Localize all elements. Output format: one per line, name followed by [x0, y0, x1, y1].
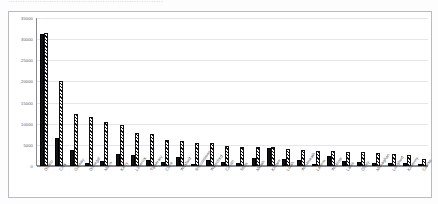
x-label-slot: Kerry: [116, 168, 124, 198]
x-label-slot: Longford: [388, 168, 396, 198]
bar-group: [161, 18, 169, 166]
y-tick-label: 10000: [21, 121, 33, 126]
bar-group: [176, 18, 184, 166]
bar-group: [236, 18, 244, 166]
bar-group: [70, 18, 78, 166]
cut-off-document-text: ........................................…: [0, 0, 438, 10]
cut-off-text: ........................................…: [8, 0, 163, 4]
bar-series-2: [74, 114, 78, 166]
x-label-slot: Kildare: [267, 168, 275, 198]
bar-group: [327, 18, 335, 166]
y-tick-label: 25000: [21, 58, 33, 63]
bar-series-2: [89, 117, 93, 166]
x-label-slot: Cork: [55, 168, 63, 198]
x-label-slot: Laois: [342, 168, 350, 198]
bar-group: [206, 18, 214, 166]
x-label-slot: Mayo: [100, 168, 108, 198]
x-label-slot: Meath: [252, 168, 260, 198]
bar-group: [191, 18, 199, 166]
bar-group: [116, 18, 124, 166]
bar-series-2: [44, 33, 48, 166]
x-label-slot: Leitrim: [312, 168, 320, 198]
x-label-slot: Wexford: [176, 168, 184, 198]
bar-series-2: [104, 122, 108, 166]
bar-group: [372, 18, 380, 166]
x-label-slot: Westmeath: [297, 168, 305, 198]
y-tick-label: 15000: [21, 100, 33, 105]
x-label-slot: Offaly: [357, 168, 365, 198]
x-label-slot: Limerick: [131, 168, 139, 198]
x-label-slot: Donegal: [85, 168, 93, 198]
y-tick-label: 5000: [23, 142, 33, 147]
chart-frame: 35000300002500020000150001000050000 Dubl…: [8, 11, 432, 198]
y-tick-label: 30000: [21, 37, 33, 42]
y-tick-label: 20000: [21, 79, 33, 84]
y-axis-labels: 35000300002500020000150001000050000: [9, 18, 35, 166]
figure-page: ........................................…: [0, 0, 438, 204]
bar-group: [146, 18, 154, 166]
bar-group: [85, 18, 93, 166]
bar-groups: [37, 18, 428, 166]
x-label-slot: Wicklow: [327, 168, 335, 198]
bar-group: [418, 18, 426, 166]
bar-group: [342, 18, 350, 166]
x-label-slot: Clare: [161, 168, 169, 198]
bar-group: [131, 18, 139, 166]
bar-group: [55, 18, 63, 166]
x-label-slot: Roscommon: [191, 168, 199, 198]
x-label-slot: Louth: [282, 168, 290, 198]
x-label-slot: Tipperary: [146, 168, 154, 198]
x-label-slot: Monaghan: [372, 168, 380, 198]
x-axis-labels: DublinCorkGalwayDonegalMayoKerryLimerick…: [37, 168, 428, 198]
x-label-slot: Cavan: [221, 168, 229, 198]
x-label-slot: Galway: [70, 168, 78, 198]
bar-group: [252, 18, 260, 166]
bar-group: [40, 18, 48, 166]
bar-group: [312, 18, 320, 166]
bar-group: [267, 18, 275, 166]
bar-group: [297, 18, 305, 166]
bar-series-2: [120, 125, 124, 166]
bar-series-2: [59, 81, 63, 166]
bar-group: [100, 18, 108, 166]
y-tick-label: 35000: [21, 16, 33, 21]
x-label-slot: Waterford: [206, 168, 214, 198]
bar-group: [388, 18, 396, 166]
bar-group: [282, 18, 290, 166]
x-label-slot: Kilkenny: [403, 168, 411, 198]
x-label-slot: Sligo: [236, 168, 244, 198]
y-tick-label: 0: [31, 164, 33, 169]
bar-group: [221, 18, 229, 166]
x-label-slot: Carlow: [418, 168, 426, 198]
bar-group: [357, 18, 365, 166]
bar-group: [403, 18, 411, 166]
x-label-slot: Dublin: [40, 168, 48, 198]
